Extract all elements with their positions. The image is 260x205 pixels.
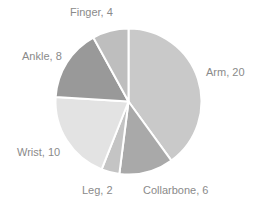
data-label-collarbone: Collarbone, 6 <box>143 184 208 197</box>
data-label-leg: Leg, 2 <box>82 184 113 197</box>
data-label-finger: Finger, 4 <box>70 6 113 19</box>
data-label-ankle: Ankle, 8 <box>22 50 62 63</box>
data-label-arm: Arm, 20 <box>206 66 245 79</box>
pie-chart <box>0 0 260 205</box>
data-label-wrist: Wrist, 10 <box>17 146 60 159</box>
